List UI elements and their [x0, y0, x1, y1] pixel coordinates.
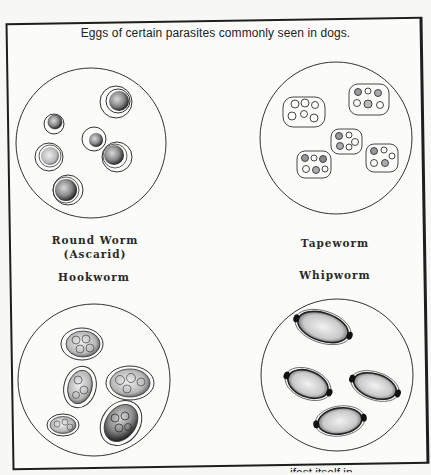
tapeworm-egg-packet-icon [349, 84, 389, 115]
tapeworm-egg-packet-icon [283, 97, 325, 127]
round-worm-panel [16, 68, 166, 218]
hookworm-egg-icon [106, 366, 154, 400]
hookworm-egg-icon [47, 414, 79, 436]
tapeworm-panel [260, 62, 412, 214]
ascarid-egg-icon [35, 143, 63, 171]
whipworm-label: Whipworm [290, 268, 380, 282]
tapeworm-egg-packet-icon [331, 129, 362, 154]
round-worm-label: Round Worm (Ascarid) [40, 233, 150, 261]
round-worm-label-name: Round Worm [40, 233, 150, 247]
whipworm-egg-icon [278, 360, 337, 407]
tapeworm-label: Tapeworm [290, 236, 380, 250]
whipworm-egg-icon [345, 364, 405, 407]
whipworm-panel [261, 299, 413, 451]
hookworm-egg-icon [61, 328, 103, 360]
ascarid-egg-icon [100, 86, 132, 118]
hookworm-egg-icon [59, 363, 101, 412]
tapeworm-egg-packet-icon [297, 151, 331, 178]
ascarid-egg-icon [53, 175, 83, 205]
ascarid-egg-icon [82, 127, 106, 151]
ascarid-egg-icon [102, 142, 132, 172]
hookworm-panel [18, 304, 170, 456]
tapeworm-egg-packet-icon [366, 144, 398, 172]
hookworm-label: Hookworm [44, 270, 144, 284]
ascarid-egg-icon [44, 114, 64, 134]
whipworm-egg-icon [311, 402, 369, 439]
round-worm-label-alias: (Ascarid) [40, 247, 150, 261]
hookworm-egg-icon [92, 392, 151, 453]
